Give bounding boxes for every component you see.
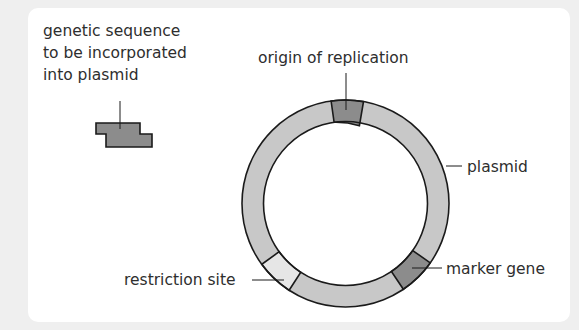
plasmid-diagram: genetic sequence to be incorporated into… [0,0,579,330]
insert-label-line-3: into plasmid [43,66,139,84]
insert-label-line-1: genetic sequence [43,22,180,40]
plasmid-ring [242,100,449,307]
restriction-label: restriction site [124,271,236,289]
marker-label: marker gene [446,260,545,278]
insert-label-line-2: to be incorporated [43,44,187,62]
origin-label: origin of replication [258,49,409,67]
plasmid-label: plasmid [467,158,528,176]
insert-fragment [96,101,152,147]
